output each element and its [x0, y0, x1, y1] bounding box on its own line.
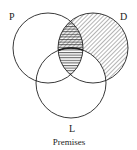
label-d: D — [120, 11, 127, 22]
caption: Premises — [53, 137, 86, 147]
label-l: L — [69, 123, 75, 134]
venn-diagram: P D L Premises — [0, 0, 137, 150]
label-p: P — [9, 11, 15, 22]
